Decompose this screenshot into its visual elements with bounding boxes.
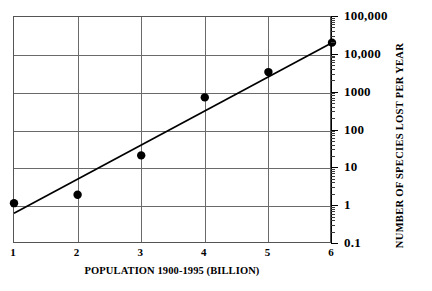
trend-line [14,43,332,214]
y-tick-label: 1 [344,198,351,211]
y-axis-major-tick [331,243,338,244]
data-point [137,151,145,159]
y-axis-minor-tick [331,103,335,104]
y-axis-minor-tick [331,60,335,61]
x-axis-title: POPULATION 1900-1995 (BILLION) [13,266,331,277]
x-tick-label: 6 [319,247,343,258]
data-layer [14,17,332,244]
y-tick-label: 100 [344,123,364,136]
y-axis-minor-tick [331,107,335,108]
y-axis-minor-tick [331,135,335,136]
y-axis-minor-tick [331,80,335,81]
y-axis-minor-tick [331,95,335,96]
y-axis-minor-tick [331,22,335,23]
y-axis-minor-tick [331,225,335,226]
plot-area [13,16,331,243]
y-axis-minor-tick [331,93,335,94]
y-axis-minor-tick [331,171,335,172]
y-axis [331,16,341,243]
x-tick-label: 2 [65,247,89,258]
y-axis-minor-tick [331,131,335,132]
y-tick-label: 1000 [344,85,371,98]
y-axis-minor-tick [331,169,335,170]
y-axis-minor-tick [331,20,335,21]
x-tick-label: 5 [255,247,279,258]
y-tick-label: 10 [344,160,357,173]
y-axis-minor-tick [331,27,335,28]
y-axis-minor-tick [331,176,335,177]
y-axis-minor-tick [331,98,335,99]
y-axis-minor-tick [331,138,335,139]
y-axis-minor-tick [331,100,335,101]
y-axis-minor-tick [331,211,335,212]
data-point [201,93,209,101]
y-axis-minor-tick [331,214,335,215]
y-axis-minor-tick [331,42,335,43]
x-tick-label: 1 [1,247,25,258]
y-axis-minor-tick [331,74,335,75]
y-axis-minor-tick [331,36,335,37]
y-axis-minor-tick [331,31,335,32]
data-point-group [10,38,336,207]
y-axis-minor-tick [331,62,335,63]
y-tick-label: 0.1 [344,236,361,249]
y-axis-minor-tick [331,56,335,57]
x-tick-label: 3 [128,247,152,258]
y-axis-minor-tick [331,182,335,183]
y-axis-minor-tick [331,69,335,70]
y-axis-minor-tick [331,207,335,208]
y-axis-minor-tick [331,149,335,150]
y-tick-label: 100,000 [344,9,388,22]
x-tick-label: 4 [192,247,216,258]
y-axis-minor-tick [331,220,335,221]
data-point [73,191,81,199]
y-axis-minor-tick [331,187,335,188]
y-axis-minor-tick [331,209,335,210]
y-axis-minor-tick [331,141,335,142]
y-axis-minor-tick [331,173,335,174]
data-point [10,199,18,207]
y-axis-title: NUMBER OF SPECIES LOST PER YEAR [389,0,411,291]
y-axis-minor-tick [331,145,335,146]
chart-figure: 100,000 10,000 1000 100 10 1 0.1 1 2 3 4… [0,0,432,291]
y-axis-minor-tick [331,111,335,112]
y-axis-minor-tick [331,18,335,19]
y-axis-minor-tick [331,194,335,195]
y-axis-minor-tick [331,156,335,157]
y-axis-minor-tick [331,118,335,119]
data-point [264,68,272,76]
y-axis-minor-tick [331,217,335,218]
y-axis-minor-tick [331,133,335,134]
y-axis-minor-tick [331,179,335,180]
y-axis-minor-tick [331,232,335,233]
y-tick-label: 10,000 [344,47,381,60]
y-axis-minor-tick [331,57,335,58]
y-axis-minor-tick [331,65,335,66]
y-axis-minor-tick [331,24,335,25]
